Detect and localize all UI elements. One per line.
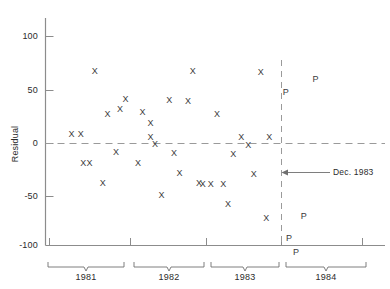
data-point-x: X [113, 147, 119, 156]
data-point-x: X [78, 129, 84, 138]
data-point-x: X [158, 191, 164, 200]
data-point-x: X [92, 67, 98, 76]
data-point-p: P [293, 247, 299, 256]
data-point-x: X [220, 179, 226, 188]
data-point-x: X [251, 170, 257, 179]
data-point-x: X [258, 68, 264, 77]
data-point-p: P [286, 233, 292, 242]
data-point-x: X [238, 133, 244, 142]
data-point-x: X [147, 119, 153, 128]
data-point-x: X [86, 158, 92, 167]
data-point-p: P [301, 211, 307, 220]
data-point-x: X [140, 107, 146, 116]
data-point-x: X [214, 109, 220, 118]
data-point-x: X [225, 199, 231, 208]
residual-scatter-chart: 100 50 0 -50 -100 Residual 1981 1982 198… [0, 0, 390, 289]
data-point-x: X [100, 178, 106, 187]
data-point-x: X [208, 179, 214, 188]
data-point-x: X [122, 94, 128, 103]
data-point-x: X [171, 149, 177, 158]
data-point-x: X [245, 140, 251, 149]
data-point-p: P [313, 74, 319, 83]
data-point-x: X [135, 158, 141, 167]
data-points-layer: XXXXXXXXXXXXXXXXXXXXXXXXXXXXXXXXXXPPPPP [0, 0, 390, 289]
data-point-x: X [263, 213, 269, 222]
data-point-x: X [230, 150, 236, 159]
data-point-x: X [68, 129, 74, 138]
data-point-x: X [104, 109, 110, 118]
data-point-x: X [176, 169, 182, 178]
data-point-x: X [152, 139, 158, 148]
data-point-x: X [117, 104, 123, 113]
data-point-x: X [190, 67, 196, 76]
data-point-x: X [166, 96, 172, 105]
data-point-p: P [283, 87, 289, 96]
data-point-x: X [200, 179, 206, 188]
data-point-x: X [185, 97, 191, 106]
data-point-x: X [266, 133, 272, 142]
data-point-x: X [80, 158, 86, 167]
